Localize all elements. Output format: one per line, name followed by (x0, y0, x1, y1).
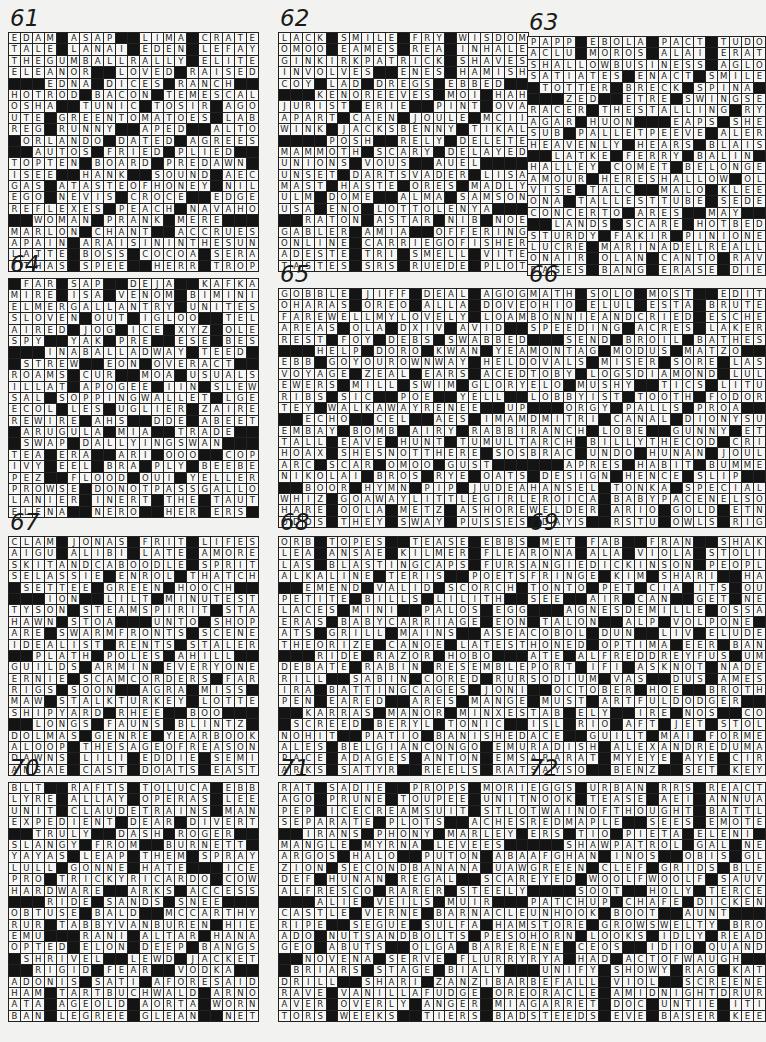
letter-cell: E (164, 44, 175, 54)
black-square (315, 204, 326, 214)
letter-cell: A (374, 731, 385, 741)
letter-cell: O (68, 147, 79, 157)
letter-cell: I (199, 147, 210, 157)
letter-cell: C (362, 806, 373, 816)
black-square (68, 101, 79, 111)
letter-cell: I (481, 323, 492, 333)
letter-cell: R (247, 473, 258, 483)
black-square (80, 484, 91, 494)
letter-cell: T (140, 783, 151, 793)
black-square (68, 370, 79, 380)
letter-cell: G (235, 192, 246, 202)
letter-cell: A (152, 113, 163, 123)
letter-cell: T (140, 227, 151, 237)
letter-cell: A (718, 674, 729, 684)
letter-cell: R (528, 426, 539, 436)
letter-cell: O (599, 942, 610, 952)
letter-cell: Y (80, 829, 91, 839)
letter-cell: E (327, 719, 338, 729)
letter-cell: A (57, 999, 68, 1009)
letter-cell: A (164, 279, 175, 289)
letter-cell: A (338, 783, 349, 793)
letter-cell: T (718, 908, 729, 918)
letter-cell: T (587, 71, 598, 81)
letter-cell: L (303, 238, 314, 248)
letter-cell: A (398, 708, 409, 718)
letter-cell: I (493, 170, 504, 180)
letter-cell: M (68, 56, 79, 66)
letter-cell: E (362, 448, 373, 458)
letter-cell: T (540, 651, 551, 661)
letter-cell: P (116, 336, 127, 346)
letter-cell: H (152, 829, 163, 839)
letter-cell: A (540, 742, 551, 752)
letter-cell: N (528, 794, 539, 804)
letter-cell: L (327, 897, 338, 907)
letter-cell: R (611, 920, 622, 930)
black-square (116, 33, 127, 43)
letter-cell: N (152, 438, 163, 448)
letter-cell: D (152, 147, 163, 157)
black-square (116, 370, 127, 380)
letter-cell: A (552, 448, 563, 458)
letter-cell: L (422, 548, 433, 558)
black-square (540, 151, 551, 161)
letter-cell: N (481, 708, 492, 718)
black-square (481, 920, 492, 930)
letter-cell: E (223, 461, 234, 471)
letter-cell: A (80, 336, 91, 346)
letter-cell: E (235, 640, 246, 650)
letter-cell: O (611, 931, 622, 941)
black-square (457, 483, 468, 493)
black-square (647, 1011, 658, 1021)
letter-cell: N (338, 204, 349, 214)
black-square (350, 289, 361, 299)
letter-cell: T (247, 416, 258, 426)
letter-cell: S (505, 170, 516, 180)
black-square (315, 460, 326, 470)
letter-cell: I (21, 685, 32, 695)
letter-cell: G (128, 393, 139, 403)
letter-cell: E (362, 192, 373, 202)
letter-cell: E (80, 954, 91, 964)
letter-cell: S (718, 651, 729, 661)
letter-cell: E (199, 56, 210, 66)
letter-cell: A (33, 279, 44, 289)
black-square (386, 794, 397, 804)
letter-cell: H (223, 79, 234, 89)
letter-cell: Y (303, 403, 314, 413)
letter-cell: P (9, 874, 20, 884)
black-square (635, 185, 646, 195)
letter-cell: I (623, 977, 634, 987)
letter-cell: D (694, 897, 705, 907)
letter-cell: N (350, 215, 361, 225)
letter-cell: W (33, 215, 44, 225)
black-square (187, 628, 198, 638)
letter-cell: L (80, 806, 91, 816)
letter-cell: A (706, 151, 717, 161)
letter-cell: B (104, 548, 115, 558)
black-square (362, 719, 373, 729)
letter-cell: O (540, 583, 551, 593)
letter-cell: R (187, 427, 198, 437)
letter-cell: E (338, 594, 349, 604)
letter-cell: I (315, 238, 326, 248)
letter-cell: A (9, 999, 20, 1009)
black-square (104, 290, 115, 300)
letter-cell: E (33, 113, 44, 123)
black-square (92, 897, 103, 907)
letter-cell: L (362, 742, 373, 752)
letter-cell: D (683, 414, 694, 424)
letter-cell: C (362, 124, 373, 134)
letter-cell: D (164, 416, 175, 426)
letter-cell: O (493, 783, 504, 793)
letter-cell: O (327, 483, 338, 493)
letter-cell: S (374, 965, 385, 975)
letter-cell: Y (445, 124, 456, 134)
letter-cell: R (469, 426, 480, 436)
letter-cell: E (57, 204, 68, 214)
letter-cell: J (410, 113, 421, 123)
letter-cell: N (469, 719, 480, 729)
letter-cell: T (410, 537, 421, 547)
letter-cell: A (457, 323, 468, 333)
